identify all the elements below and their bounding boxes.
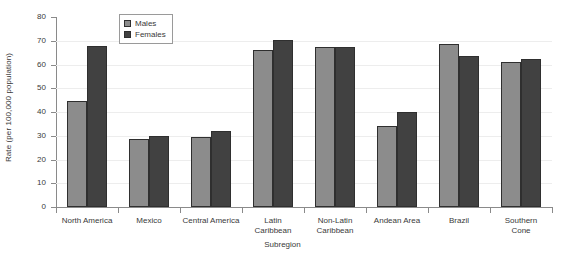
x-tick-label-0: North America (56, 216, 118, 226)
bar-females-1 (149, 136, 169, 207)
bar-females-7 (521, 59, 541, 207)
bar-females-4 (335, 47, 355, 207)
bar-females-6 (459, 56, 479, 207)
x-tick-label-line: Brazil (428, 216, 490, 226)
x-tick-label-line: Andean Area (366, 216, 428, 226)
x-tick-1 (118, 208, 119, 213)
x-tick-label-line: Latin (242, 216, 304, 226)
x-tick-label-line: Central America (180, 216, 242, 226)
x-tick-2 (180, 208, 181, 213)
y-tick-label-60: 60 (0, 61, 46, 69)
legend-swatch-males-icon (124, 20, 131, 27)
x-tick-label-line: Caribbean (242, 226, 304, 236)
plot-area (56, 17, 552, 207)
x-tick-label-line: North America (56, 216, 118, 226)
legend-swatch-females-icon (124, 31, 131, 38)
x-tick-7 (490, 208, 491, 213)
x-tick-5 (366, 208, 367, 213)
x-tick-label-1: Mexico (118, 216, 180, 226)
bar-chart: Rate (per 100,000 population) 0102030405… (0, 0, 565, 256)
x-tick-label-5: Andean Area (366, 216, 428, 226)
x-tick-label-line: Mexico (118, 216, 180, 226)
x-tick-label-4: Non-LatinCaribbean (304, 216, 366, 236)
legend-item-females: Females (124, 29, 166, 40)
x-tick-label-3: LatinCaribbean (242, 216, 304, 236)
y-tick-label-0: 0 (0, 203, 46, 211)
x-tick-label-6: Brazil (428, 216, 490, 226)
y-tick-label-80: 80 (0, 13, 46, 21)
chart-legend: Males Females (119, 14, 173, 44)
bar-females-2 (211, 131, 231, 207)
x-tick-label-line: Southern (490, 216, 552, 226)
bar-males-6 (439, 44, 459, 207)
x-tick-6 (428, 208, 429, 213)
legend-item-males: Males (124, 18, 166, 29)
y-tick-label-20: 20 (0, 156, 46, 164)
y-tick-label-50: 50 (0, 84, 46, 92)
x-tick-0 (56, 208, 57, 213)
bar-males-5 (377, 126, 397, 207)
bar-males-4 (315, 47, 335, 207)
bar-males-1 (129, 139, 149, 207)
bar-males-7 (501, 62, 521, 207)
y-tick-label-10: 10 (0, 179, 46, 187)
bar-females-3 (273, 40, 293, 207)
legend-label-males: Males (135, 19, 156, 28)
y-tick-label-40: 40 (0, 108, 46, 116)
x-tick-label-7: SouthernCone (490, 216, 552, 236)
bar-males-3 (253, 50, 273, 207)
x-tick-label-line: Caribbean (304, 226, 366, 236)
x-tick-3 (242, 208, 243, 213)
bar-males-0 (67, 101, 87, 207)
legend-label-females: Females (135, 30, 166, 39)
y-tick-label-30: 30 (0, 132, 46, 140)
bar-females-5 (397, 112, 417, 207)
x-tick-label-2: Central America (180, 216, 242, 226)
bar-males-2 (191, 137, 211, 207)
x-tick-4 (304, 208, 305, 213)
y-tick-label-70: 70 (0, 37, 46, 45)
x-tick-label-line: Non-Latin (304, 216, 366, 226)
x-axis-title: Subregion (0, 240, 565, 249)
x-tick-label-line: Cone (490, 226, 552, 236)
bar-females-0 (87, 46, 107, 208)
x-tick-end (552, 208, 553, 213)
